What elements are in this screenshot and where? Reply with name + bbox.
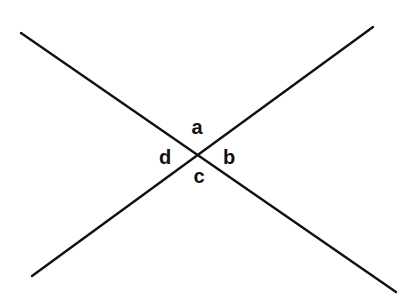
line-top-left-to-bottom-right xyxy=(21,33,396,292)
angle-label-b: b xyxy=(223,146,235,168)
intersecting-lines-diagram: a b c d xyxy=(0,0,408,306)
angle-label-c: c xyxy=(193,165,204,187)
angle-label-d: d xyxy=(159,146,171,168)
angle-label-a: a xyxy=(191,116,203,138)
line-bottom-left-to-top-right xyxy=(32,27,373,276)
